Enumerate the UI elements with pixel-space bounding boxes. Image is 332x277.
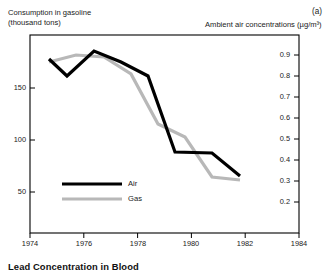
y-right-tick-2: 0.7 [268, 93, 290, 101]
x-tick-1978: 1978 [121, 240, 155, 248]
x-tick-1982: 1982 [228, 240, 262, 248]
legend-label-air: Air [128, 180, 137, 188]
y-left-tick-2: 50 [0, 188, 26, 196]
x-tick-1984: 1984 [282, 240, 316, 248]
y-left-tick-0: 150 [0, 84, 26, 92]
plot-frame [30, 35, 299, 233]
y-right-tick-0: 0.9 [268, 51, 290, 59]
y-right-tick-6: 0.3 [268, 177, 290, 185]
figure-caption: Lead Concentration in Blood [8, 261, 139, 272]
figure-panel: Consumption in gasoline(thousand tons) A… [0, 0, 332, 277]
y-right-tick-3: 0.6 [268, 114, 290, 122]
y-right-tick-5: 0.4 [268, 156, 290, 164]
y-right-tick-4: 0.5 [268, 135, 290, 143]
x-tick-1980: 1980 [174, 240, 208, 248]
y-left-tick-1: 100 [0, 136, 26, 144]
y-right-tick-7: 0.2 [268, 198, 290, 206]
x-tick-1974: 1974 [13, 240, 47, 248]
legend-label-gas: Gas [128, 195, 142, 203]
x-axis-ticks [30, 233, 299, 238]
x-tick-1976: 1976 [67, 240, 101, 248]
y-right-tick-1: 0.8 [268, 72, 290, 80]
